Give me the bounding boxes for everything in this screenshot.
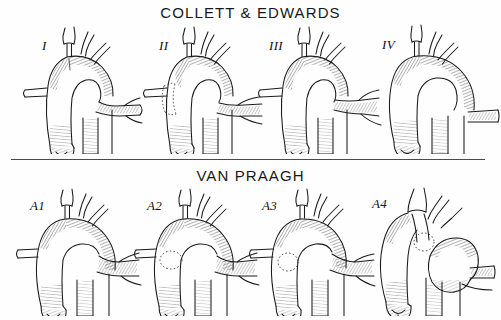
figure-label-II: II	[159, 38, 168, 54]
figure-label-A3: A3	[262, 198, 277, 214]
figure-label-I: I	[42, 38, 47, 54]
figure-label-IV: IV	[382, 37, 395, 53]
section-van-praagh: VAN PRAAGH A1	[0, 160, 501, 320]
section-collett-edwards: COLLETT & EDWARDS I	[0, 0, 501, 160]
figure-label-A4: A4	[372, 196, 387, 212]
figure-type-IV: IV	[372, 24, 500, 154]
figure-type-II: II	[140, 26, 265, 154]
figure-label-A2: A2	[147, 198, 162, 214]
truncus-classification-figure: COLLETT & EDWARDS I	[0, 0, 501, 320]
figure-label-III: III	[269, 38, 283, 54]
figure-type-A2: A2	[133, 188, 261, 316]
section-title-van-praagh: VAN PRAAGH	[0, 167, 501, 184]
figure-type-A4: A4	[362, 186, 496, 316]
illustration-type-I	[20, 26, 145, 154]
figure-type-I: I	[20, 26, 145, 154]
figure-label-A1: A1	[30, 198, 45, 214]
figure-type-A1: A1	[15, 188, 143, 316]
section-title-collett-edwards: COLLETT & EDWARDS	[0, 4, 501, 21]
figure-type-III: III	[255, 26, 383, 154]
figure-type-A3: A3	[248, 188, 376, 316]
